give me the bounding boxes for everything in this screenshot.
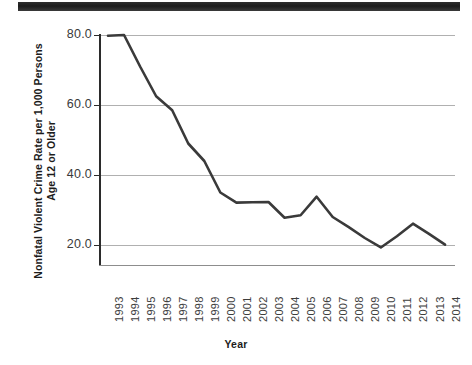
x-tick-label-2011: 2011: [401, 262, 413, 322]
y-tick-label-80: 80.0: [67, 27, 92, 41]
x-tick-label-2003: 2003: [273, 262, 285, 322]
x-tick-label-2006: 2006: [321, 262, 333, 322]
x-tick-label-2013: 2013: [434, 262, 446, 322]
y-tick-label-60: 60.0: [67, 97, 92, 111]
x-tick-label-2012: 2012: [417, 262, 429, 322]
x-tick-label-1997: 1997: [177, 262, 189, 322]
y-axis-title-container: Nonfatal Violent Crime Rate per 1,000 Pe…: [14, 0, 38, 300]
x-tick-label-2014: 2014: [450, 262, 462, 322]
x-tick-label-1994: 1994: [129, 262, 141, 322]
x-tick-label-1996: 1996: [161, 262, 173, 322]
x-tick-label-2009: 2009: [369, 262, 381, 322]
x-tick-label-1998: 1998: [193, 262, 205, 322]
x-tick-label-2008: 2008: [353, 262, 365, 322]
x-axis-tick-labels: 1993199419951996199719981999200020012002…: [0, 268, 472, 328]
x-tick-label-2002: 2002: [257, 262, 269, 322]
y-tick-label-20: 20.0: [67, 237, 92, 251]
gridline-40: [100, 175, 455, 176]
gridline-20: [100, 245, 455, 246]
x-axis-title: Year: [0, 338, 472, 350]
x-tick-label-2000: 2000: [225, 262, 237, 322]
x-tick-label-1995: 1995: [145, 262, 157, 322]
x-tick-label-2004: 2004: [289, 262, 301, 322]
series-line-nonfatal-violent-crime-rate: [108, 35, 445, 247]
y-tick-label-40: 40.0: [67, 167, 92, 181]
gridline-60: [100, 105, 455, 106]
gridline-80: [100, 35, 455, 36]
x-tick-label-1993: 1993: [113, 262, 125, 322]
x-tick-label-2010: 2010: [385, 262, 397, 322]
x-tick-label-1999: 1999: [209, 262, 221, 322]
y-axis-line: [99, 34, 101, 266]
line-chart: Nonfatal Violent Crime Rate per 1,000 Pe…: [0, 0, 472, 365]
x-tick-label-2005: 2005: [305, 262, 317, 322]
x-tick-label-2001: 2001: [241, 262, 253, 322]
x-tick-label-2007: 2007: [337, 262, 349, 322]
